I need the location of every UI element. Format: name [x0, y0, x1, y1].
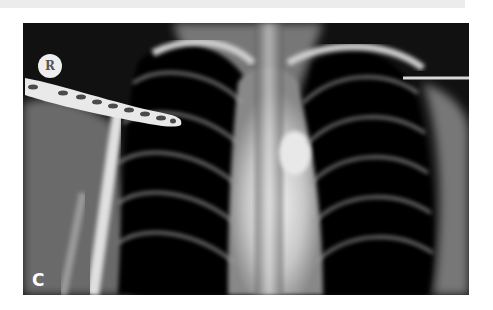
panel-label: C [32, 272, 44, 289]
side-marker: R [38, 54, 62, 78]
xray-graphic [23, 23, 469, 295]
top-strip [0, 0, 465, 8]
xray-image: R C [23, 23, 469, 295]
side-marker-label: R [45, 59, 55, 73]
